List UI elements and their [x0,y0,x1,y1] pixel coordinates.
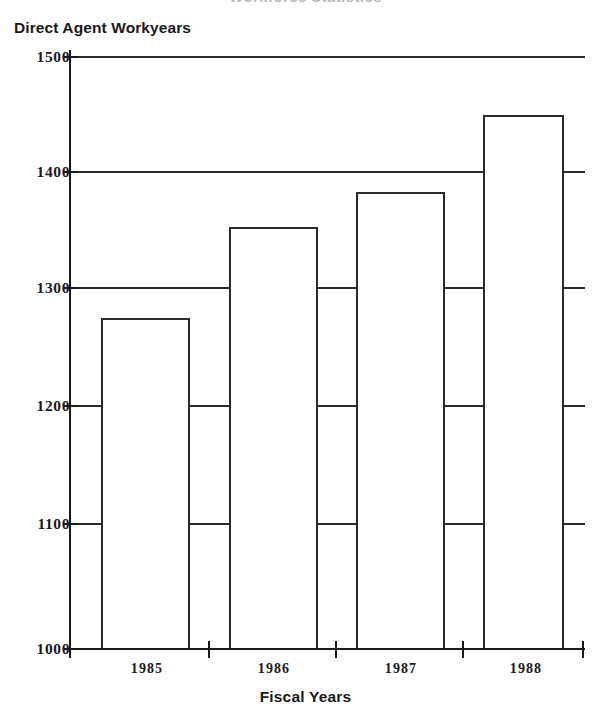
x-axis-tick-labels: 1985 1986 1987 1988 [0,0,611,718]
x-axis-caption: Fiscal Years [0,688,611,706]
x-axis-tick-label: 1987 [359,662,443,676]
x-axis-tick-label: 1988 [484,662,568,676]
x-axis-tick-label: 1986 [232,662,316,676]
x-axis-tick-label: 1985 [105,662,189,676]
